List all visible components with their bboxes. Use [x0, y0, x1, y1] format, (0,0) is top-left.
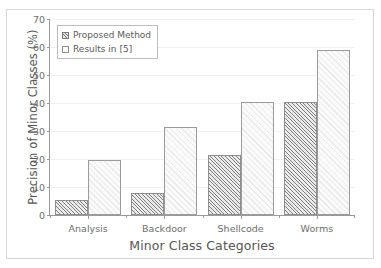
- legend-item: Proposed Method: [62, 29, 151, 41]
- legend-swatch-icon: [62, 46, 69, 53]
- bar-results-in-5: [164, 127, 197, 215]
- x-axis-title: Minor Class Categories: [49, 238, 355, 253]
- x-tick-boundary-mark: [279, 215, 280, 218]
- bar-group: [279, 19, 355, 215]
- y-tick-label: 10: [33, 182, 45, 193]
- x-tick-label: Worms: [301, 223, 334, 234]
- y-tick-label: 60: [33, 42, 45, 53]
- bar-proposed-method: [208, 155, 241, 215]
- x-tick-mark: [164, 215, 165, 219]
- y-tick-label: 40: [33, 98, 45, 109]
- bar-results-in-5: [88, 160, 121, 215]
- x-tick-boundary-mark: [126, 215, 127, 218]
- x-tick-label: Shellcode: [218, 223, 264, 234]
- x-tick-mark: [88, 215, 89, 219]
- y-tick-label: 50: [33, 70, 45, 81]
- bar-proposed-method: [55, 200, 88, 215]
- y-tick-label: 0: [39, 210, 45, 221]
- y-tick-label: 70: [33, 14, 45, 25]
- x-tick-boundary-mark: [203, 215, 204, 218]
- x-tick-label: Backdoor: [142, 223, 187, 234]
- bar-proposed-method: [131, 193, 164, 215]
- legend-item: Results in [5]: [62, 43, 151, 55]
- bar-proposed-method: [284, 102, 317, 215]
- bar-results-in-5: [317, 50, 350, 215]
- bar-results-in-5: [241, 102, 274, 215]
- legend-label: Results in [5]: [73, 44, 132, 54]
- legend: Proposed MethodResults in [5]: [57, 25, 158, 59]
- x-tick-mark: [241, 215, 242, 219]
- y-tick-label: 30: [33, 126, 45, 137]
- bar-group: [203, 19, 279, 215]
- x-tick-label: Analysis: [69, 223, 108, 234]
- y-tick-label: 20: [33, 154, 45, 165]
- legend-label: Proposed Method: [73, 30, 151, 40]
- x-tick-mark: [317, 215, 318, 219]
- figure: Precision of Minor Classes (%) 010203040…: [0, 0, 381, 268]
- x-tick-boundary-mark: [354, 215, 355, 218]
- x-tick-boundary-mark: [50, 215, 51, 218]
- legend-swatch-icon: [62, 32, 69, 39]
